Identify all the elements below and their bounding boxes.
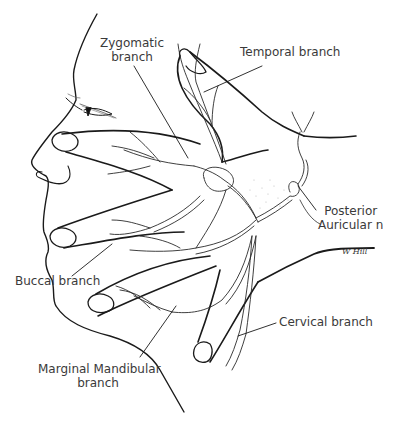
leader-marginal-mandibular [140,306,176,357]
leader-cervical [238,323,276,336]
label-buccal-branch: Buccal branch [15,274,100,288]
leader-zygomatic [134,66,188,158]
label-temporal-branch: Temporal branch [240,45,340,59]
label-line: branch [38,376,158,390]
label-line: branch [100,50,164,64]
label-line: Posterior [318,204,383,218]
leader-lines [72,66,316,357]
artist-signature: W Hill [342,247,367,256]
parotid-stipple [245,179,288,208]
label-line: Zygomatic [100,36,164,50]
leader-posterior-auricular [298,186,316,210]
leader-buccal [72,244,112,276]
label-posterior-auricular: Posterior Auricular n [318,204,383,232]
label-zygomatic-branch: Zygomatic branch [100,36,164,64]
label-marginal-mandibular-branch: Marginal Mandibular branch [38,362,158,390]
label-cervical-branch: Cervical branch [279,315,373,329]
label-line: Marginal Mandibular [38,362,158,376]
label-line: Auricular n [318,218,383,232]
face-profile [32,14,184,412]
facial-nerve-diagram: Zygomatic branch Temporal branch Posteri… [0,0,396,422]
